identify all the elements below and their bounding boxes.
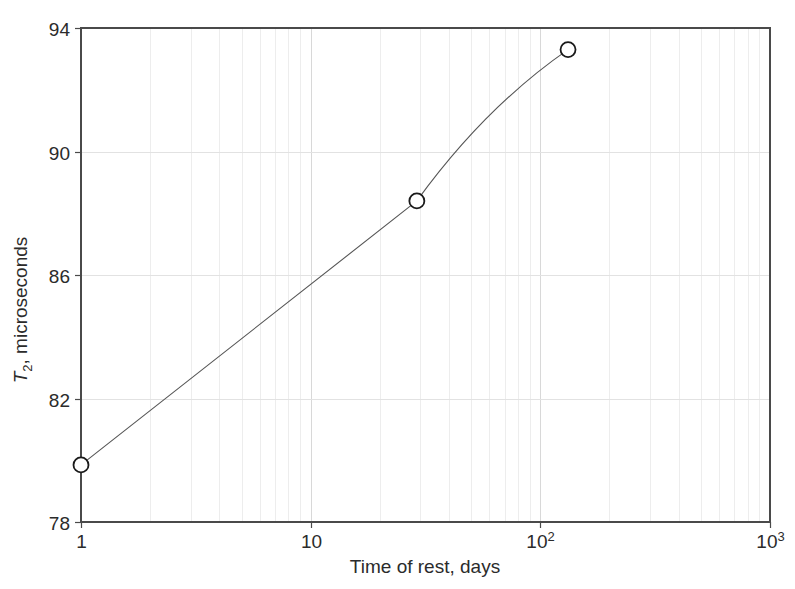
y-tick-label: 82 [49, 390, 70, 411]
y-tick-label: 90 [49, 143, 70, 164]
line-chart: 7882869094 110102103 Time of rest, days … [0, 0, 795, 589]
y-axis-subscript: 2 [20, 364, 35, 371]
y-axis-title-rest: , microseconds [10, 237, 31, 365]
data-point-marker [561, 42, 576, 57]
y-tick-label: 86 [49, 266, 70, 287]
y-tick-label: 94 [49, 19, 71, 40]
x-tick-label: 10 [301, 531, 322, 552]
x-axis-title: Time of rest, days [350, 556, 500, 577]
chart-background [0, 0, 795, 589]
data-point-marker [74, 457, 89, 472]
x-tick-label: 1 [76, 531, 87, 552]
y-tick-label: 78 [49, 513, 70, 534]
data-point-marker [409, 193, 424, 208]
chart-figure: 7882869094 110102103 Time of rest, days … [0, 0, 795, 589]
